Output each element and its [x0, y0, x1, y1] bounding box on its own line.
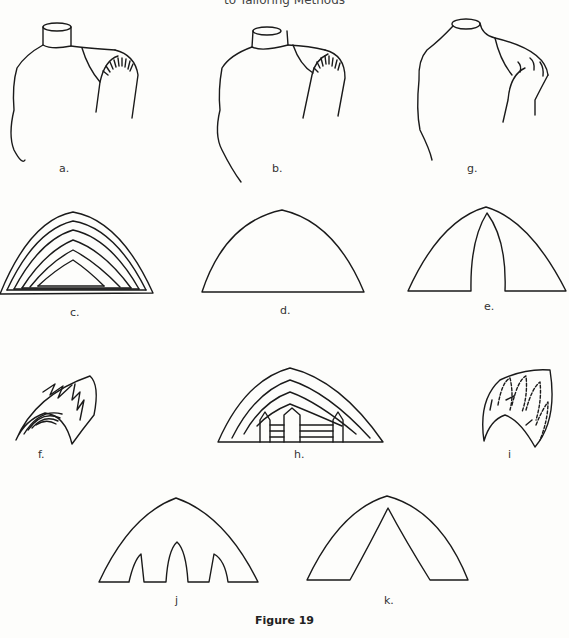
- panel-g-torso: [418, 19, 548, 160]
- panel-a-hatch: [103, 58, 133, 75]
- label-f: f.: [38, 448, 45, 461]
- figure-caption: Figure 19: [0, 614, 569, 627]
- label-g: g.: [467, 162, 477, 175]
- panel-f-stitch-arrows: [43, 384, 84, 420]
- panel-i-pad: [483, 370, 552, 447]
- label-b: b.: [272, 162, 282, 175]
- label-a: a.: [59, 162, 69, 175]
- panel-d-arch: [202, 210, 364, 292]
- panel-f-pad: [16, 376, 96, 444]
- panel-b-torso: [217, 27, 345, 182]
- panel-e-arch-dart: [408, 207, 566, 291]
- label-j: j: [175, 594, 178, 607]
- label-c: c.: [70, 306, 80, 319]
- figure-drawing: [0, 0, 569, 638]
- panel-h-layered-darts: [218, 368, 383, 442]
- panel-c-arches: [0, 212, 153, 294]
- label-k: k.: [384, 594, 394, 607]
- panel-k-v-dart: [307, 496, 468, 580]
- panel-j-three-darts: [99, 498, 258, 582]
- label-d: d.: [280, 304, 290, 317]
- panel-a-torso: [11, 23, 138, 161]
- label-e: e.: [484, 300, 494, 313]
- label-h: h.: [294, 448, 304, 461]
- panel-i-dashed-stitches: [498, 376, 548, 440]
- label-i: i: [508, 448, 511, 461]
- panel-b-hatch: [314, 56, 340, 72]
